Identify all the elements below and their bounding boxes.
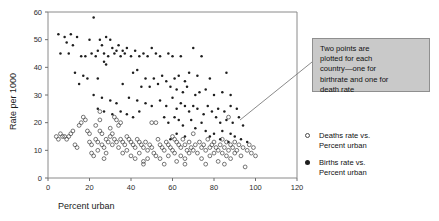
data-point-births: [113, 52, 116, 55]
data-point-deaths: [252, 146, 256, 150]
data-point-births: [159, 55, 162, 58]
data-point-births: [92, 16, 95, 19]
data-point-births: [227, 141, 230, 144]
data-point-births: [78, 83, 81, 86]
data-point-deaths: [254, 154, 258, 158]
data-point-deaths: [119, 121, 123, 125]
data-point-births: [119, 55, 122, 58]
data-point-deaths: [71, 129, 75, 133]
data-point-births: [86, 77, 89, 80]
data-point-births: [200, 55, 203, 58]
data-point-deaths: [204, 148, 208, 152]
data-point-births: [177, 74, 180, 77]
data-point-births: [167, 121, 170, 124]
data-point-deaths: [121, 151, 125, 155]
data-point-deaths: [90, 143, 94, 147]
data-point-deaths: [183, 162, 187, 166]
x-tick-label-80: 80: [210, 183, 218, 192]
data-point-births: [175, 108, 178, 111]
data-point-births: [229, 94, 232, 97]
data-point-deaths: [198, 140, 202, 144]
data-point-births: [242, 124, 245, 127]
data-point-births: [223, 110, 226, 113]
data-point-births: [207, 105, 210, 108]
data-point-deaths: [150, 146, 154, 150]
data-point-births: [169, 138, 172, 141]
data-point-deaths: [129, 154, 133, 158]
data-point-births: [217, 108, 220, 111]
data-point-deaths: [196, 151, 200, 155]
data-point-births: [221, 130, 224, 133]
data-point-births: [196, 108, 199, 111]
data-point-deaths: [206, 137, 210, 141]
data-point-births: [138, 55, 141, 58]
data-point-births: [130, 55, 133, 58]
data-point-births: [144, 77, 147, 80]
data-point-deaths: [83, 118, 87, 122]
data-point-births: [213, 94, 216, 97]
data-point-deaths: [146, 157, 150, 161]
data-point-births: [103, 61, 106, 64]
data-point-births: [165, 105, 168, 108]
data-point-deaths: [110, 132, 114, 136]
x-tick-label-0: 0: [46, 183, 50, 192]
data-point-deaths: [237, 143, 241, 147]
data-point-deaths: [218, 143, 222, 147]
data-point-births: [151, 47, 154, 50]
data-point-births: [63, 36, 66, 39]
data-point-births: [159, 99, 162, 102]
data-point-deaths: [75, 146, 79, 150]
data-point-births: [136, 99, 139, 102]
annotation-text: Two points are plotted for each country—…: [320, 44, 423, 95]
data-point-deaths: [200, 157, 204, 161]
data-point-births: [80, 55, 83, 58]
data-point-births: [180, 102, 183, 105]
data-point-deaths: [56, 137, 60, 141]
data-point-deaths: [202, 143, 206, 147]
data-point-births: [111, 113, 114, 116]
filled-dot-marker-icon: [305, 160, 310, 165]
data-point-births: [155, 52, 158, 55]
data-point-deaths: [212, 140, 216, 144]
data-point-births: [173, 77, 176, 80]
data-point-births: [196, 74, 199, 77]
data-point-births: [163, 116, 166, 119]
data-point-births: [103, 110, 106, 113]
data-point-births: [209, 135, 212, 138]
y-axis-title: Rate per 1000: [8, 73, 18, 130]
data-point-deaths: [104, 151, 108, 155]
x-tick-label-20: 20: [85, 183, 93, 192]
data-point-births: [109, 99, 112, 102]
data-point-births: [82, 74, 85, 77]
data-point-births: [157, 83, 160, 86]
legend-label-deaths: Deaths rate vs. Percent urban: [319, 131, 423, 151]
data-point-deaths: [204, 162, 208, 166]
data-point-deaths: [193, 143, 197, 147]
y-tick-label-0: 0: [38, 174, 42, 183]
data-point-births: [128, 97, 131, 100]
data-point-deaths: [173, 151, 177, 155]
data-point-births: [119, 110, 122, 113]
y-tick-label-20: 20: [34, 118, 42, 127]
data-point-births: [72, 44, 75, 47]
data-point-births: [68, 52, 71, 55]
legend-item-deaths: Deaths rate vs. Percent urban: [303, 131, 423, 151]
data-point-births: [246, 141, 249, 144]
data-point-births: [132, 72, 135, 75]
data-point-births: [219, 121, 222, 124]
data-point-births: [190, 119, 193, 122]
data-point-deaths: [216, 148, 220, 152]
data-point-births: [84, 55, 87, 58]
data-point-births: [97, 77, 100, 80]
data-point-deaths: [227, 115, 231, 119]
data-point-births: [103, 52, 106, 55]
x-tick-label-40: 40: [127, 183, 135, 192]
data-point-births: [99, 38, 102, 41]
data-point-births: [92, 94, 95, 97]
data-point-deaths: [115, 118, 119, 122]
data-point-deaths: [102, 157, 106, 161]
data-point-births: [105, 63, 108, 66]
data-point-deaths: [156, 137, 160, 141]
data-point-births: [101, 44, 104, 47]
data-point-deaths: [179, 154, 183, 158]
